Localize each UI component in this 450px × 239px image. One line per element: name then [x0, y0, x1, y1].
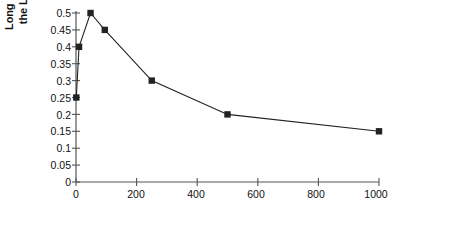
data-point-marker: [376, 128, 382, 134]
y-tick-label-0.4: 0.4: [37, 41, 71, 53]
x-tick-label-0: 0: [52, 188, 100, 200]
data-point-marker: [102, 27, 108, 33]
chart-figure: Long Run Std. Deviation in the Log of Av…: [0, 0, 450, 239]
y-tick-label-0.45: 0.45: [37, 24, 71, 36]
y-tick-label-0: 0: [37, 176, 71, 188]
y-tick-label-0.35: 0.35: [37, 58, 71, 70]
y-tick-label-0.3: 0.3: [37, 75, 71, 87]
y-tick-label-0.2: 0.2: [37, 109, 71, 121]
x-tick-label-1000: 1000: [352, 188, 400, 200]
y-tick-label-0.25: 0.25: [37, 92, 71, 104]
axes: [76, 11, 379, 182]
y-tick-label-0.05: 0.05: [37, 159, 71, 171]
data-point-marker: [87, 10, 93, 16]
data-point-marker: [76, 44, 82, 50]
x-tick-label-400: 400: [172, 188, 220, 200]
y-tick-label-0.1: 0.1: [37, 142, 71, 154]
x-tick-label-800: 800: [292, 188, 340, 200]
x-tick-label-600: 600: [232, 188, 280, 200]
y-axis-tick-labels: 0.5 0.45 0.4 0.35 0.3 0.25 0.2 0.15 0.1 …: [33, 0, 71, 239]
data-point-marker: [224, 111, 230, 117]
data-point-marker: [73, 94, 79, 100]
y-axis-title-line-2: the Log of Average Price: [16, 0, 30, 46]
y-tick-label-0.15: 0.15: [37, 125, 71, 137]
y-axis-title-line-1: Long Run Std. Deviation in: [2, 0, 16, 46]
x-tick-label-200: 200: [112, 188, 160, 200]
data-point-marker: [149, 77, 155, 83]
data-series-markers: [73, 10, 382, 135]
y-axis-title: Long Run Std. Deviation in the Log of Av…: [2, 0, 36, 46]
y-tick-label-0.5: 0.5: [37, 7, 71, 19]
